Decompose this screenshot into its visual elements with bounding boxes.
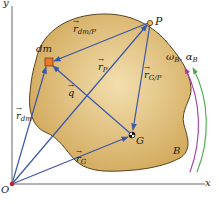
vector-r-dm-p-label: →rdm/P bbox=[73, 24, 96, 36]
body-label: B bbox=[173, 146, 180, 156]
center-of-mass-icon bbox=[129, 132, 135, 138]
rigid-body-b bbox=[30, 14, 192, 171]
point-g-label: G bbox=[136, 136, 144, 146]
point-p-label: P bbox=[155, 16, 162, 27]
dm-label: dm bbox=[36, 44, 52, 54]
vector-r-g-p-label: →rG/P bbox=[144, 70, 161, 82]
origin-label: O bbox=[1, 185, 9, 195]
rotation-label: ωB, αB bbox=[166, 52, 198, 64]
y-axis-label: y bbox=[3, 0, 9, 8]
vector-r-g-label: →rG bbox=[76, 154, 86, 166]
origin-dot bbox=[10, 182, 15, 187]
point-p-dot bbox=[147, 20, 152, 25]
vector-r-p-label: →rP bbox=[98, 62, 108, 74]
vector-q-label: →q bbox=[68, 88, 74, 98]
x-axis-label: x bbox=[205, 178, 211, 188]
vector-r-dm-label: →rdm bbox=[16, 111, 32, 123]
dm-element-square bbox=[45, 58, 53, 66]
kinematics-diagram bbox=[0, 0, 219, 204]
